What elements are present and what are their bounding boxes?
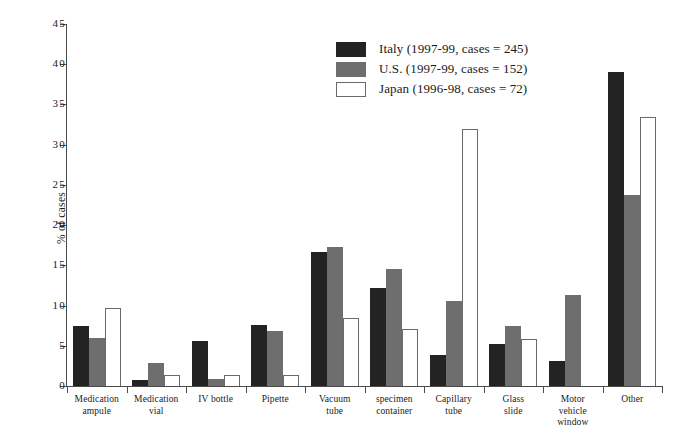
legend-item: U.S. (1997-99, cases = 152) — [336, 61, 528, 77]
bar — [608, 72, 624, 386]
y-axis-tick-label: 45 — [18, 17, 66, 29]
bar-group — [127, 24, 187, 386]
bar — [370, 288, 386, 386]
x-axis-tick — [365, 386, 366, 393]
bar — [462, 129, 478, 386]
bar — [521, 339, 537, 386]
bar — [224, 375, 240, 386]
bar — [624, 195, 640, 386]
bar — [89, 338, 105, 386]
bar — [549, 361, 565, 386]
x-axis-tick — [305, 386, 306, 393]
bar — [105, 308, 121, 386]
y-axis-tick-label: 15 — [18, 258, 66, 270]
x-axis-tick — [424, 386, 425, 393]
bar — [343, 318, 359, 386]
bar — [132, 380, 148, 386]
x-axis-tick — [484, 386, 485, 393]
x-axis-tick — [543, 386, 544, 393]
bar — [311, 252, 327, 386]
legend-label: Italy (1997-99, cases = 245) — [379, 41, 528, 57]
legend-item: Japan (1996-98, cases = 72) — [336, 81, 528, 97]
bar — [489, 344, 505, 386]
bar — [446, 301, 462, 386]
bar — [640, 117, 656, 386]
y-axis-ticks: 051015202530354045 — [0, 0, 66, 446]
y-axis-tick-label: 10 — [18, 299, 66, 311]
bar — [430, 355, 446, 386]
bar-group — [186, 24, 246, 386]
bar — [208, 379, 224, 386]
y-axis-tick-label: 40 — [18, 57, 66, 69]
bar-group — [67, 24, 127, 386]
bar — [251, 325, 267, 386]
y-axis-tick-label: 35 — [18, 97, 66, 109]
legend-swatch — [336, 42, 366, 57]
legend-item: Italy (1997-99, cases = 245) — [336, 41, 528, 57]
bar-group — [603, 24, 663, 386]
bar — [192, 341, 208, 386]
bar — [73, 326, 89, 386]
x-axis-tick — [603, 386, 604, 393]
bar — [283, 375, 299, 386]
x-axis-tick — [127, 386, 128, 393]
y-axis-tick-label: 25 — [18, 178, 66, 190]
bar — [565, 295, 581, 386]
x-axis-category-label: Other — [596, 394, 670, 406]
legend-label: U.S. (1997-99, cases = 152) — [379, 61, 527, 77]
y-axis-tick-label: 0 — [18, 379, 66, 391]
legend-label: Japan (1996-98, cases = 72) — [379, 81, 527, 97]
bar — [164, 375, 180, 386]
y-axis-tick-label: 5 — [18, 339, 66, 351]
legend-swatch — [336, 62, 366, 77]
y-axis-tick-label: 20 — [18, 218, 66, 230]
bar — [327, 247, 343, 386]
bar — [148, 363, 164, 386]
x-axis-tick — [186, 386, 187, 393]
bar — [402, 329, 418, 386]
bar — [267, 331, 283, 387]
bar-group — [246, 24, 306, 386]
bar — [505, 326, 521, 386]
x-axis-tick — [246, 386, 247, 393]
x-axis-tick — [67, 386, 68, 393]
y-axis-tick-label: 30 — [18, 138, 66, 150]
bar — [386, 269, 402, 386]
bar-chart: % of cases 051015202530354045 Medication… — [0, 0, 679, 446]
x-axis-tick — [662, 386, 663, 393]
chart-legend: Italy (1997-99, cases = 245)U.S. (1997-9… — [336, 41, 528, 97]
bar-group — [543, 24, 603, 386]
legend-swatch — [336, 82, 366, 97]
